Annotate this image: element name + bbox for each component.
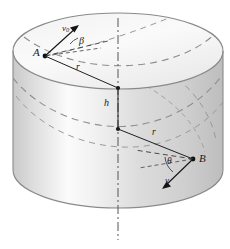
cylinder-figure: A B v0 β θ v h r r xyxy=(0,0,230,249)
label-initial-velocity-subscript: 0 xyxy=(66,26,69,33)
label-radius-lower: r xyxy=(152,128,156,138)
label-radius-top: r xyxy=(76,63,80,73)
label-point-b: B xyxy=(199,153,206,164)
label-final-velocity: v xyxy=(165,176,169,185)
figure-canvas xyxy=(0,0,230,249)
label-angle-theta: θ xyxy=(167,157,172,167)
label-initial-velocity: v0 xyxy=(62,24,69,34)
label-angle-beta: β xyxy=(79,36,84,46)
label-height: h xyxy=(104,98,109,108)
label-point-a: A xyxy=(33,47,40,58)
